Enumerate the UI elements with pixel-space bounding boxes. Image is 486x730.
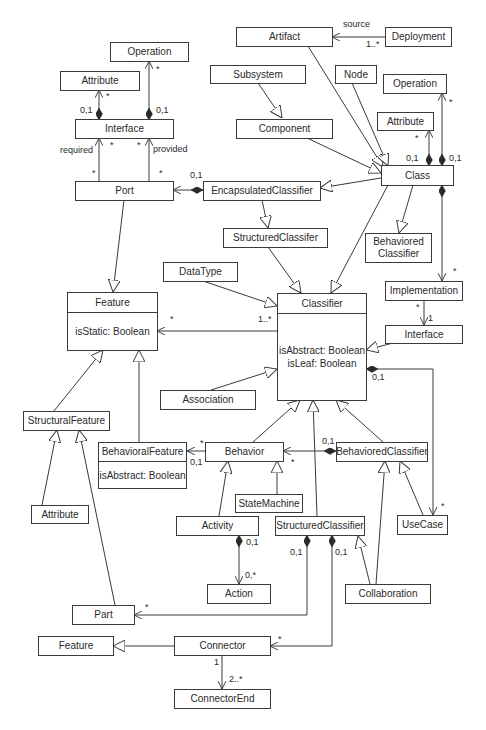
mult-label: * [145,602,149,612]
class-name: StructuralFeature [24,412,109,430]
class-behavior[interactable]: Behavior [205,442,284,462]
class-structural-feature[interactable]: StructuralFeature [23,411,110,431]
class-interface-right[interactable]: Interface [385,325,463,344]
class-subsystem[interactable]: Subsystem [210,65,306,84]
class-name: Classifier [278,294,366,313]
mult-label: * [416,302,420,312]
gen-encapsulated-structured [262,200,268,228]
class-encapsulated-classifier[interactable]: EncapsulatedClassifier [203,181,321,201]
mult-label: * [449,97,453,107]
class-component[interactable]: Component [236,119,333,139]
class-interface-top[interactable]: Interface [75,119,174,139]
class-port[interactable]: Port [75,181,174,201]
mult-label: * [110,140,114,150]
class-name: Operation [111,43,188,61]
class-implementation[interactable]: Implementation [385,281,463,301]
gen-usecase-behavioredclassifier [400,461,423,515]
class-name: Implementation [386,282,462,300]
mult-label: * [415,133,419,143]
mult-label: 0,1 [190,457,203,467]
class-operation-top[interactable]: Operation [110,42,189,62]
attribute-is-leaf: isLeaf: Boolean [288,357,357,370]
class-action[interactable]: Action [207,584,271,604]
class-connector[interactable]: Connector [174,636,271,656]
class-structured-classifier[interactable]: StructuredClassifier [275,516,365,536]
class-name: BehavioralFeature [99,443,186,461]
class-attributes: isStatic: Boolean [68,312,157,350]
class-deployment[interactable]: Deployment [385,27,452,47]
class-name: Class [382,166,453,185]
class-behavioral-feature[interactable]: BehavioralFeature isAbstract: Boolean [98,442,187,489]
gen-subsystem-component [258,83,282,118]
mult-label: 0,1 [335,547,348,557]
mult-label: 0,1 [290,547,303,557]
mult-label: 0,1 [322,436,335,446]
gen-behavior-classifier [253,400,300,442]
class-use-case[interactable]: UseCase [397,515,448,535]
class-name: Subsystem [211,66,305,83]
class-name: Activity [177,517,258,535]
class-part[interactable]: Part [72,605,135,625]
mult-label: * [92,168,96,178]
class-operation-right[interactable]: Operation [383,74,447,94]
class-artifact[interactable]: Artifact [236,27,333,47]
mult-label: * [159,168,163,178]
mult-label: 1 [428,313,433,323]
class-datatype[interactable]: DataType [163,262,238,282]
class-name: Behavior [206,443,283,461]
gen-class-encapsulated [320,178,381,188]
class-classifier[interactable]: Classifier isAbstract: Boolean isLeaf: B… [277,293,367,401]
mult-label: 0,1 [156,105,169,115]
class-name: Connector [175,637,270,655]
mult-label: * [441,501,445,511]
class-feature-bottom[interactable]: Feature [38,636,114,656]
class-activity[interactable]: Activity [176,516,259,536]
class-name: UseCase [398,516,447,534]
class-name: Action [208,585,270,603]
class-name: Attribute [61,72,139,90]
class-name: StructuredClassifer [224,229,327,247]
class-class[interactable]: Class [381,165,454,186]
class-name-line1: Behaviored [373,236,424,248]
class-name: Behaviored Classifier [366,234,431,262]
class-structured-classifer-top[interactable]: StructuredClassifer [223,228,328,248]
class-feature[interactable]: Feature isStatic: Boolean [67,292,158,351]
mult-label: 2..* [229,674,243,684]
class-attribute-top[interactable]: Attribute [60,71,140,91]
mult-label: * [453,266,457,276]
mult-label: * [137,140,141,150]
class-name-line2: Classifier [378,248,419,260]
class-name: Feature [68,293,157,312]
class-name: Node [336,66,376,83]
class-association[interactable]: Association [160,390,256,410]
class-behaviored-classifier[interactable]: BehavioredClassifier [336,442,428,462]
class-attribute-right[interactable]: Attribute [377,112,434,131]
gen-structuredclassifier-classifier [313,400,317,516]
class-name: EncapsulatedClassifier [204,182,320,200]
class-attribute-bottom[interactable]: Attribute [31,505,89,524]
mult-label: 0,1 [246,537,259,547]
mult-label: * [170,314,174,324]
gen-association-classifier [211,369,277,390]
attribute-is-abstract: isAbstract: Boolean [279,344,365,357]
mult-label: * [200,438,204,448]
class-collaboration[interactable]: Collaboration [345,584,431,604]
role-label-source: source [343,19,370,29]
class-state-machine[interactable]: StateMachine [235,494,303,513]
class-name: Operation [384,75,446,93]
mult-label: 1 [214,657,219,667]
gen-behavioredclassifier-classifier [336,400,383,442]
class-name: Artifact [237,28,332,46]
mult-label: 0,1 [190,170,203,180]
class-name: Interface [386,326,462,343]
role-label-required: required [60,145,93,155]
class-name: Attribute [378,113,433,130]
class-name: Attribute [32,506,88,523]
class-behaviored-classifier-top[interactable]: Behaviored Classifier [365,233,432,263]
gen-structuralfeature-feature [54,350,103,411]
gen-interface-classifier [366,343,393,350]
class-node[interactable]: Node [335,65,377,84]
class-connector-end[interactable]: ConnectorEnd [174,689,271,709]
gen-collaboration-structuredclassifier [358,536,370,584]
class-name: BehavioredClassifier [337,443,427,461]
